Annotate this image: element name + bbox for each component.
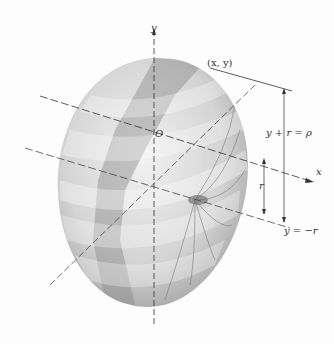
outer-dimension-label: y + r = ρ — [265, 127, 312, 138]
y-axis-label: y — [150, 22, 157, 33]
point-label: (x, y) — [207, 57, 233, 68]
bottom-line-label: y = −r — [283, 225, 319, 236]
x-axis-label: x — [316, 166, 322, 177]
torus-surface — [58, 58, 248, 307]
torus-diagram: y x O (x, y) y + r = ρ r y = −r — [0, 0, 334, 344]
origin-label: O — [155, 128, 163, 139]
